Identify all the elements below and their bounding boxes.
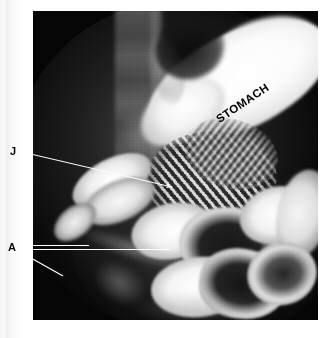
anastomosis-label: A bbox=[8, 242, 16, 253]
leader-line-jejunum bbox=[22, 152, 172, 187]
radiograph-figure: STOMACH J A bbox=[0, 0, 328, 338]
jejunum-label: J bbox=[10, 146, 16, 157]
annotation-overlay bbox=[0, 0, 328, 338]
leader-line-anastomosis-lower bbox=[23, 254, 63, 277]
